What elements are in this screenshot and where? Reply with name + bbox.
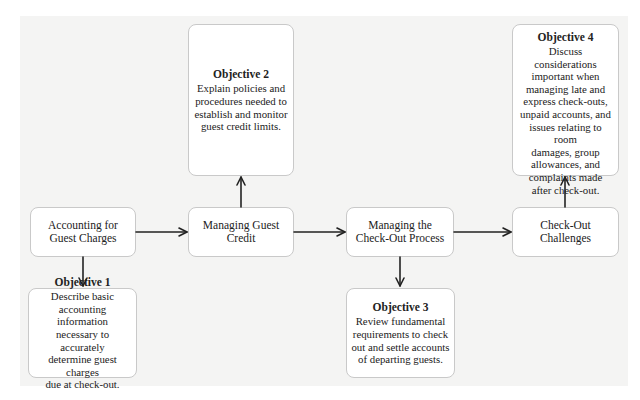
- objective-1-text: Describe basic accounting information ne…: [33, 290, 132, 391]
- objective-2-title: Objective 2: [213, 67, 269, 81]
- process-label: Check-Out Process: [356, 232, 444, 245]
- objective-2-line: Explain policies and: [195, 82, 288, 95]
- objective-1-box: Objective 1 Describe basic accounting in…: [28, 288, 137, 378]
- objective-3-box: Objective 3 Review fundamental requireme…: [346, 288, 455, 378]
- process-label: Accounting for: [48, 219, 118, 232]
- objective-1-line: Describe basic: [33, 290, 132, 303]
- objective-3-line: of departing guests.: [351, 353, 449, 366]
- process-box-accounting-for-guest-charges: Accounting for Guest Charges: [30, 207, 136, 257]
- objective-4-box: Objective 4 Discuss considerations impor…: [512, 24, 619, 176]
- objective-4-line: express check-outs,: [517, 95, 614, 108]
- process-label: Guest Charges: [49, 232, 116, 245]
- objective-1-line: accounting information: [33, 303, 132, 328]
- objective-3-title: Objective 3: [373, 300, 429, 314]
- objective-2-line: procedures needed to: [195, 95, 288, 108]
- process-box-managing-check-out-process: Managing the Check-Out Process: [346, 207, 454, 257]
- objective-4-line: managing late and: [517, 83, 614, 96]
- process-label: Credit: [227, 232, 256, 245]
- objective-4-line: unpaid accounts, and: [517, 108, 614, 121]
- objective-4-line: damages, group: [517, 146, 614, 159]
- objective-1-line: determine guest charges: [33, 353, 132, 378]
- process-label: Managing the: [368, 219, 432, 232]
- process-label: Managing Guest: [203, 219, 279, 232]
- objective-4-line: after check-out.: [517, 184, 614, 197]
- objective-4-title: Objective 4: [538, 30, 594, 44]
- objective-3-text: Review fundamental requirements to check…: [351, 315, 449, 365]
- process-label: Check-Out: [540, 219, 590, 232]
- objective-2-box: Objective 2 Explain policies and procedu…: [188, 24, 294, 176]
- objective-3-line: out and settle accounts: [351, 341, 449, 354]
- process-label: Challenges: [540, 232, 591, 245]
- objective-4-line: Discuss considerations: [517, 45, 614, 70]
- objective-2-line: establish and monitor: [195, 108, 288, 121]
- objective-4-line: issues relating to room: [517, 121, 614, 146]
- process-box-check-out-challenges: Check-Out Challenges: [512, 207, 619, 257]
- objective-1-line: due at check-out.: [33, 378, 132, 391]
- objective-4-line: complaints made: [517, 171, 614, 184]
- objective-4-line: allowances, and: [517, 158, 614, 171]
- objective-2-line: guest credit limits.: [195, 120, 288, 133]
- objective-3-line: requirements to check: [351, 328, 449, 341]
- objective-4-line: important when: [517, 70, 614, 83]
- objective-4-text: Discuss considerations important when ma…: [517, 45, 614, 196]
- objective-1-title: Objective 1: [55, 275, 111, 289]
- objective-1-line: necessary to accurately: [33, 328, 132, 353]
- process-box-managing-guest-credit: Managing Guest Credit: [188, 207, 294, 257]
- objective-3-line: Review fundamental: [351, 315, 449, 328]
- objective-2-text: Explain policies and procedures needed t…: [195, 82, 288, 132]
